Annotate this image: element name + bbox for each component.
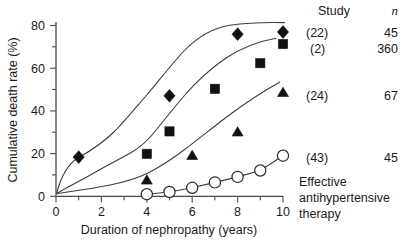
y-axis	[50, 22, 56, 196]
y-axis-title: Cumulative death rate (%)	[6, 37, 20, 182]
chart-canvas: 80 60 40 20 0 0 2 4 6 8 10 Duration of n…	[0, 0, 414, 242]
data-point-circle	[209, 177, 220, 188]
annotation-line-1: Effective	[299, 175, 347, 189]
data-point-square	[210, 84, 219, 93]
annotation-line-2: antihypertensive	[299, 191, 390, 205]
y-tick-label-80: 80	[31, 19, 45, 33]
data-point-triangle	[187, 150, 198, 159]
data-point-diamond	[73, 151, 84, 164]
data-point-circle	[141, 189, 152, 200]
legend-header-n: n	[392, 3, 399, 18]
x-tick-label-6: 6	[189, 205, 196, 219]
annotation-line-3: therapy	[299, 207, 341, 221]
x-tick-label-8: 8	[234, 205, 241, 219]
data-point-triangle	[141, 175, 152, 184]
data-point-diamond	[232, 28, 243, 41]
data-point-circle	[232, 171, 243, 182]
data-point-triangle	[232, 127, 243, 136]
y-tick-label-20: 20	[31, 147, 45, 161]
series-22-markers	[73, 26, 289, 164]
y-tick-label-60: 60	[31, 62, 45, 76]
data-point-triangle	[278, 87, 289, 96]
legend-n-24: 67	[384, 89, 398, 103]
data-point-circle	[255, 165, 266, 176]
data-point-circle	[164, 186, 175, 197]
y-tick-labels: 80 60 40 20 0	[31, 19, 45, 204]
data-point-circle	[187, 182, 198, 193]
x-axis-title: Duration of nephropathy (years)	[81, 223, 257, 237]
legend-n-22: 45	[384, 26, 398, 40]
legend: Study n (22) 45 (2) 360 (24) 67 (43) 45 …	[299, 3, 398, 221]
series-43-markers	[141, 150, 288, 200]
data-point-diamond	[277, 26, 288, 39]
legend-n-2: 360	[377, 42, 398, 56]
data-point-square	[256, 59, 265, 68]
data-point-square	[142, 149, 151, 158]
series-2-markers	[142, 39, 287, 158]
chart-figure: 80 60 40 20 0 0 2 4 6 8 10 Duration of n…	[0, 0, 414, 242]
x-tick-label-4: 4	[143, 205, 150, 219]
legend-header-study: Study	[318, 4, 351, 18]
legend-study-43: (43)	[306, 151, 328, 165]
data-point-diamond	[164, 89, 175, 102]
legend-study-22: (22)	[306, 26, 328, 40]
data-point-square	[278, 39, 287, 48]
legend-n-43: 45	[384, 151, 398, 165]
x-tick-label-2: 2	[98, 205, 105, 219]
curve-series-2	[57, 38, 276, 193]
x-tick-labels: 0 2 4 6 8 10	[53, 205, 290, 219]
y-tick-label-40: 40	[31, 104, 45, 118]
x-tick-label-0: 0	[53, 205, 60, 219]
curve-series-22	[57, 22, 285, 193]
data-point-circle	[277, 150, 288, 161]
x-tick-label-10: 10	[276, 205, 290, 219]
data-point-square	[165, 127, 174, 136]
y-tick-label-0: 0	[38, 190, 45, 204]
legend-study-24: (24)	[306, 89, 328, 103]
legend-study-2: (2)	[310, 42, 325, 56]
